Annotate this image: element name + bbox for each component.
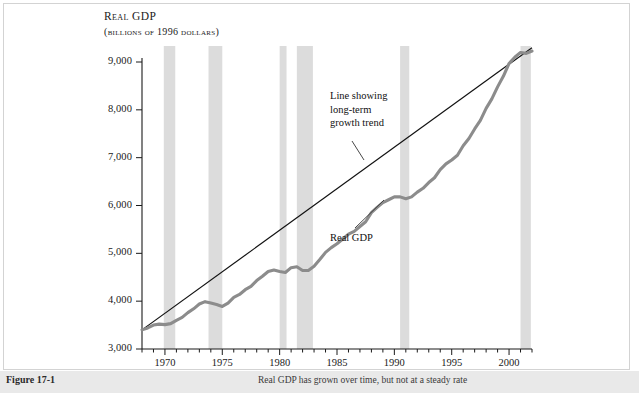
x-axis-tick-label: 1995 [430,357,474,368]
trend-leader-line [352,141,364,160]
annotation-real-gdp: Real GDP [330,231,373,245]
y-axis-tick-label: 5,000 [92,246,132,257]
recession-band [521,46,531,349]
recession-band [280,46,287,349]
y-axis-tick-label: 3,000 [92,342,132,353]
annotation-trend: Line showing long-term growth trend [330,89,387,130]
figure-caption-label: Figure 17-1 [6,374,55,385]
annotation-trend-line3: growth trend [330,116,387,130]
recession-band [164,46,175,349]
x-axis-tick-label: 1975 [200,357,244,368]
annotation-trend-line1: Line showing [330,89,387,103]
x-axis-tick-label: 1985 [315,357,359,368]
gdp-leader-line [355,200,384,228]
figure-caption-text: Real GDP has grown over time, but not at… [258,375,467,385]
annotation-trend-line2: long-term [330,103,387,117]
x-axis-tick-label: 1980 [258,357,302,368]
x-axis-tick-label: 1970 [143,357,187,368]
figure-caption-bar: Figure 17-1 Real GDP has grown over time… [0,371,639,393]
figure-container: Real GDP (billions of 1996 dollars) Line… [0,0,639,393]
y-axis-ticks [136,62,142,349]
x-axis-ticks [142,349,532,355]
y-axis-tick-label: 4,000 [92,294,132,305]
y-axis-tick-label: 8,000 [92,103,132,114]
y-axis-tick-label: 6,000 [92,199,132,210]
x-axis-tick-label: 2000 [487,357,531,368]
x-axis-tick-label: 1990 [372,357,416,368]
y-axis-tick-label: 9,000 [92,55,132,66]
recession-band [297,46,313,349]
y-axis-tick-label: 7,000 [92,151,132,162]
